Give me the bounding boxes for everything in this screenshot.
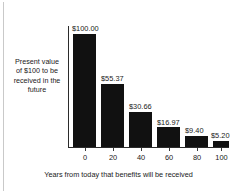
x-axis-line xyxy=(68,147,229,148)
page-left-rule xyxy=(3,2,4,191)
y-axis-title-line-1: Present value xyxy=(8,57,66,66)
x-tick-80 xyxy=(197,148,198,151)
x-tick-label-60: 60 xyxy=(165,153,173,162)
bar-label-20: $55.37 xyxy=(101,75,124,83)
plot-area: $100.00 $55.37 $30.66 $16.97 $9.40 $5.20… xyxy=(68,26,229,148)
y-axis-title-line-3: received in the xyxy=(8,76,66,85)
bar-0 xyxy=(73,34,96,147)
present-value-bar-chart: Present value of $100 to be received in … xyxy=(0,0,237,193)
x-tick-label-40: 40 xyxy=(137,153,145,162)
x-tick-20 xyxy=(113,148,114,151)
x-tick-label-100: 100 xyxy=(215,153,227,162)
x-axis-title: Years from today that benefits will be r… xyxy=(0,170,237,179)
bar-40 xyxy=(129,112,152,147)
bar-label-100: $5.20 xyxy=(211,132,230,140)
x-tick-0 xyxy=(85,148,86,151)
y-axis-title-line-4: future xyxy=(8,85,66,94)
y-axis-title-line-2: of $100 to be xyxy=(8,66,66,75)
x-tick-60 xyxy=(169,148,170,151)
bar-label-80: $9.40 xyxy=(185,127,204,135)
bar-80 xyxy=(185,136,208,147)
bar-label-60: $16.97 xyxy=(157,119,180,127)
x-tick-label-20: 20 xyxy=(109,153,117,162)
x-tick-40 xyxy=(141,148,142,151)
bar-60 xyxy=(157,127,180,146)
y-axis-title: Present value of $100 to be received in … xyxy=(8,57,66,95)
x-tick-100 xyxy=(221,148,222,151)
y-axis-line xyxy=(68,26,69,148)
x-tick-label-80: 80 xyxy=(193,153,201,162)
bar-100 xyxy=(213,141,229,147)
bar-label-40: $30.66 xyxy=(129,103,152,111)
bar-label-0: $100.00 xyxy=(72,25,99,33)
x-tick-label-0: 0 xyxy=(83,153,87,162)
bar-20 xyxy=(101,84,124,147)
